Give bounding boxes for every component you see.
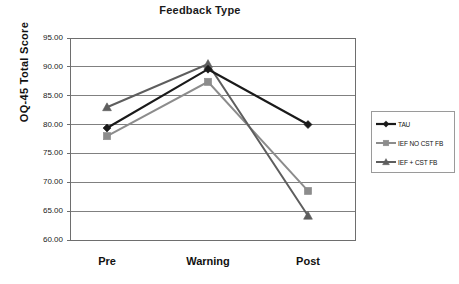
chart-container: Feedback Type OQ-45 Total Score 95.0090.…: [0, 0, 459, 284]
legend-label-ief-cst-fb: IEF + CST FB: [398, 159, 437, 166]
legend-label-ief-no-cst-fb: IEF NO CST FB: [398, 140, 443, 147]
legend-label-tau: TAU: [398, 121, 410, 128]
chart-legend: TAU IEF NO CST FB IEF + CST FB: [371, 111, 455, 173]
legend-marker-diamond-icon: [375, 118, 397, 130]
legend-item-ief-cst-fb: IEF + CST FB: [375, 155, 437, 169]
legend-item-tau: TAU: [375, 117, 410, 131]
legend-item-ief-no-cst-fb: IEF NO CST FB: [375, 136, 443, 150]
legend-marker-square-icon: [375, 137, 397, 149]
legend-marker-triangle-icon: [375, 156, 397, 168]
